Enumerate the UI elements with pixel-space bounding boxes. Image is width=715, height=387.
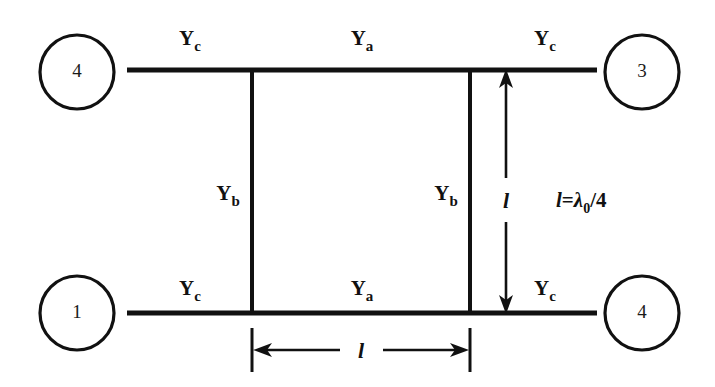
admittance-base: Y (216, 181, 231, 205)
admittance-subscript: c (549, 288, 556, 304)
admittance-label-yc-bottom-left: Yc (179, 276, 201, 304)
admittance-label-yc-top-left: Yc (179, 26, 201, 54)
diagram-canvas: 4 3 1 4 Yc Ya Yc Yb Yb Yc Ya Yc (0, 0, 715, 387)
admittance-label-yb-left: Yb (216, 181, 240, 209)
equation-lambda-symbol: λ (573, 188, 583, 212)
wavelength-equation: l=λ0/4 (556, 188, 607, 216)
admittance-label-ya-bottom: Ya (351, 276, 374, 304)
equation-subscript: 0 (583, 201, 590, 216)
admittance-subscript: c (194, 288, 201, 304)
admittance-subscript: a (366, 38, 374, 54)
admittance-subscript: b (231, 193, 239, 209)
admittance-base: Y (351, 26, 366, 50)
horizontal-dimension-arrow: l (252, 328, 470, 372)
node-bottom-left: 1 (40, 276, 114, 350)
equation-equals: = (562, 188, 574, 212)
admittance-label-yc-bottom-right: Yc (534, 276, 556, 304)
admittance-base: Y (179, 26, 194, 50)
vertical-length-label: l (503, 188, 510, 213)
admittance-label-yc-top-right: Yc (534, 26, 556, 54)
admittance-subscript: b (449, 193, 457, 209)
node-bottom-right: 4 (605, 276, 679, 350)
admittance-subscript: c (549, 38, 556, 54)
horizontal-length-label: l (358, 338, 365, 363)
admittance-label-ya-top: Ya (351, 26, 374, 54)
admittance-subscript: c (194, 38, 201, 54)
node-label: 4 (637, 301, 647, 322)
equation-denominator: 4 (596, 188, 607, 212)
admittance-base: Y (534, 26, 549, 50)
admittance-subscript: a (366, 288, 374, 304)
admittance-base: Y (351, 276, 366, 300)
admittance-base: Y (534, 276, 549, 300)
admittance-base: Y (179, 276, 194, 300)
node-label: 4 (72, 60, 82, 81)
node-label: 3 (637, 60, 647, 81)
node-top-left: 4 (40, 35, 114, 109)
vertical-dimension-arrow: l (499, 69, 513, 314)
node-top-right: 3 (605, 35, 679, 109)
node-label: 1 (72, 301, 82, 322)
admittance-base: Y (434, 181, 449, 205)
transmission-line-diagram: 4 3 1 4 Yc Ya Yc Yb Yb Yc Ya Yc (0, 0, 715, 387)
admittance-label-yb-right: Yb (434, 181, 458, 209)
